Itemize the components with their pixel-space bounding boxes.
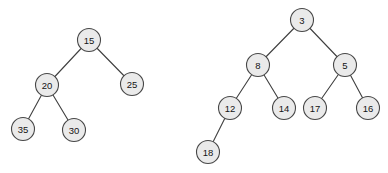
tree-node-30: 30 (63, 119, 86, 142)
left-tree: 1520253530 (12, 29, 144, 142)
tree-node-20: 20 (36, 74, 59, 97)
tree-node-label: 15 (84, 35, 95, 46)
tree-node-18: 18 (197, 141, 220, 164)
tree-node-label: 16 (363, 103, 374, 114)
tree-node-3: 3 (291, 9, 314, 32)
tree-node-5: 5 (334, 54, 357, 77)
tree-diagram-canvas: 15202535303851214171618 (0, 0, 388, 173)
tree-node-8: 8 (247, 54, 270, 77)
tree-node-25: 25 (121, 73, 144, 96)
tree-node-label: 14 (279, 103, 290, 114)
tree-node-35: 35 (12, 118, 35, 141)
binary-trees-diagram: 15202535303851214171618 (0, 0, 388, 173)
tree-node-17: 17 (304, 97, 327, 120)
tree-node-label: 17 (310, 103, 321, 114)
tree-node-label: 35 (18, 124, 29, 135)
tree-node-12: 12 (219, 97, 242, 120)
right-tree: 3851214171618 (197, 9, 380, 164)
tree-node-label: 30 (69, 125, 80, 136)
tree-node-label: 12 (225, 103, 236, 114)
tree-node-15: 15 (78, 29, 101, 52)
tree-node-label: 20 (42, 80, 53, 91)
tree-node-label: 25 (127, 79, 138, 90)
tree-node-16: 16 (357, 97, 380, 120)
tree-node-label: 8 (255, 60, 260, 71)
tree-node-14: 14 (273, 97, 296, 120)
tree-node-label: 18 (203, 147, 214, 158)
tree-node-label: 5 (342, 60, 347, 71)
tree-node-label: 3 (299, 15, 304, 26)
